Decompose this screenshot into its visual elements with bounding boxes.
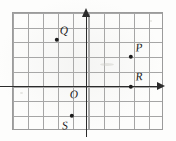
y-axis-line bbox=[86, 14, 87, 137]
x-axis-arrow-icon bbox=[157, 82, 165, 90]
paper-speck bbox=[100, 63, 114, 66]
x-axis-line bbox=[0, 86, 160, 87]
origin-label: O bbox=[69, 89, 78, 101]
paper-speck bbox=[20, 92, 23, 94]
y-axis-arrow-icon bbox=[82, 8, 90, 17]
point-p-label: P bbox=[135, 42, 143, 54]
paper-speck bbox=[150, 20, 152, 22]
point-s-label: S bbox=[62, 120, 69, 132]
point-q-label: Q bbox=[59, 25, 68, 37]
point-r-label: R bbox=[135, 71, 143, 83]
coordinate-plane-figure: O Q P R S bbox=[0, 0, 176, 141]
